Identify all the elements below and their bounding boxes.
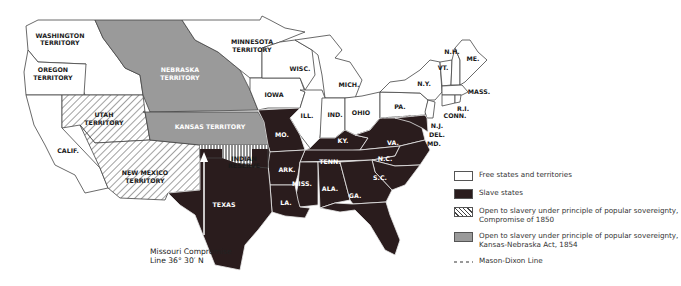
legend-item-compromise-1850: Open to slavery under principle of popul… bbox=[454, 206, 681, 224]
label-nj: N.J. bbox=[431, 122, 443, 130]
label-tenn: TENN. bbox=[319, 158, 341, 165]
label-nebraska-1: NEBRASKA bbox=[161, 66, 200, 73]
label-calif: CALIF. bbox=[57, 147, 79, 154]
label-pa: PA. bbox=[394, 103, 405, 110]
label-mo: MO. bbox=[275, 131, 289, 138]
label-nc: N.C. bbox=[378, 155, 393, 162]
label-newmexico-1: NEW MEXICO bbox=[122, 169, 169, 176]
missouri-compromise-label-1: Missouri Compromise bbox=[150, 247, 232, 256]
legend-item-free: Free states and territories bbox=[454, 170, 681, 181]
rhode-island bbox=[455, 95, 461, 103]
label-oregon-2: TERRITORY bbox=[33, 74, 73, 81]
legend-text: Mason-Dixon Line bbox=[479, 256, 543, 265]
label-texas: TEXAS bbox=[213, 201, 236, 208]
label-ark: ARK. bbox=[279, 166, 296, 173]
label-ky: KY. bbox=[338, 137, 349, 144]
label-la: LA. bbox=[280, 199, 291, 206]
label-miss: MISS. bbox=[292, 180, 312, 187]
label-utah-2: TERRITORY bbox=[84, 119, 124, 126]
legend-item-slave: Slave states bbox=[454, 188, 681, 199]
label-mass: MASS. bbox=[468, 88, 490, 95]
legend: Free states and territories Slave states… bbox=[454, 170, 681, 272]
label-mich: MICH. bbox=[339, 81, 360, 88]
label-vt: VT. bbox=[438, 64, 449, 71]
label-nebraska-2: TERRITORY bbox=[160, 74, 200, 81]
label-kansas: KANSAS TERRITORY bbox=[175, 123, 246, 130]
indian-strip bbox=[200, 145, 268, 149]
label-washington-2: TERRITORY bbox=[40, 39, 80, 46]
slave-swatch-icon bbox=[454, 189, 473, 199]
florida bbox=[320, 202, 400, 255]
label-ind: IND. bbox=[327, 111, 342, 118]
massachusetts bbox=[442, 85, 468, 95]
label-newmexico-2: TERRITORY bbox=[125, 177, 165, 184]
label-ri: R.I. bbox=[457, 105, 469, 112]
label-ohio: OHIO bbox=[352, 109, 371, 116]
connecticut bbox=[442, 95, 455, 106]
label-nh: N.H. bbox=[444, 48, 459, 55]
label-utah-1: UTAH bbox=[94, 111, 113, 118]
maine bbox=[455, 40, 487, 85]
legend-item-kansas-nebraska: Open to slavery under principle of popul… bbox=[454, 231, 681, 249]
free-swatch-icon bbox=[454, 171, 473, 181]
label-indian-2: RESERVE bbox=[228, 162, 260, 169]
label-minnesota-1: MINNESOTA bbox=[231, 38, 273, 45]
legend-item-mason-dixon: Mason-Dixon Line bbox=[454, 256, 681, 265]
legend-text: Free states and territories bbox=[479, 170, 572, 179]
indiana bbox=[320, 98, 345, 138]
label-wisc: WISC. bbox=[290, 65, 311, 72]
label-fla: FLA. bbox=[362, 235, 378, 242]
label-ga: GA. bbox=[349, 192, 362, 199]
label-indian-1: INDIAN bbox=[231, 155, 256, 162]
label-iowa: IOWA bbox=[264, 91, 283, 98]
label-sc: S.C. bbox=[373, 174, 387, 181]
missouri-compromise-label-2: Line 36° 30′ N bbox=[150, 256, 204, 265]
hatch-swatch-icon bbox=[454, 207, 473, 217]
label-conn: CONN. bbox=[444, 112, 467, 119]
label-ill: ILL. bbox=[301, 112, 314, 119]
dashed-line-icon bbox=[454, 261, 473, 263]
label-washington-1: WASHINGTON bbox=[36, 32, 85, 39]
label-md: MD. bbox=[427, 140, 441, 147]
label-ala: ALA. bbox=[322, 185, 338, 192]
legend-text: Slave states bbox=[479, 188, 523, 197]
legend-text: Open to slavery under principle of popul… bbox=[479, 206, 681, 224]
label-del: DEL. bbox=[429, 131, 445, 138]
label-oregon-1: OREGON bbox=[38, 66, 68, 73]
label-ny: N.Y. bbox=[417, 80, 431, 87]
gray-swatch-icon bbox=[454, 232, 473, 242]
legend-text: Open to slavery under principle of popul… bbox=[479, 231, 681, 249]
label-minnesota-2: TERRITORY bbox=[232, 46, 272, 53]
label-va: VA. bbox=[387, 139, 399, 146]
label-me: ME. bbox=[467, 55, 480, 62]
